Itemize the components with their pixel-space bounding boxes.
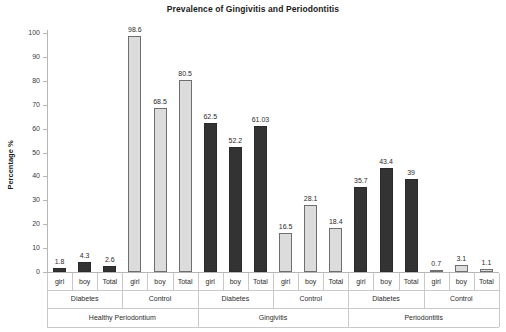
x-tick-label-total: Total xyxy=(399,278,424,285)
bar-gingivitis-control-total[interactable] xyxy=(329,228,342,272)
bar-periodontitis-control-total[interactable] xyxy=(480,269,493,272)
y-tick-label: 70 xyxy=(14,101,40,108)
x-group-label-control: Control xyxy=(122,295,197,302)
bar-gingivitis-diabetes-total[interactable] xyxy=(254,126,267,272)
bar-gingivitis-control-boy[interactable] xyxy=(304,205,317,272)
y-tick-label: 90 xyxy=(14,53,40,60)
bar-value-label: 35.7 xyxy=(345,177,377,184)
axis-cell-separator xyxy=(97,273,98,290)
axis-cell-separator xyxy=(122,290,123,308)
x-tick-label-total: Total xyxy=(248,278,273,285)
bar-value-label: 28.1 xyxy=(295,195,327,202)
y-tick-label: 50 xyxy=(14,149,40,156)
bar-periodontitis-control-girl[interactable] xyxy=(430,270,443,272)
axis-cell-separator xyxy=(424,273,425,290)
y-tick-label: 80 xyxy=(14,77,40,84)
x-tick-label-girl: girl xyxy=(348,278,373,285)
bar-value-label: 68.5 xyxy=(144,98,176,105)
axis-cell-separator xyxy=(248,273,249,290)
x-group-label-diabetes: Diabetes xyxy=(198,295,273,302)
axis-cell-separator xyxy=(499,273,500,327)
x-tick-label-boy: boy xyxy=(298,278,323,285)
x-tick-label-total: Total xyxy=(474,278,499,285)
bar-value-label: 2.6 xyxy=(94,256,126,263)
bar-value-label: 43.4 xyxy=(370,158,402,165)
x-group-label-control: Control xyxy=(273,295,348,302)
x-tick-label-girl: girl xyxy=(273,278,298,285)
bar-value-label: 98.6 xyxy=(119,26,151,33)
bar-value-label: 61.03 xyxy=(244,116,276,123)
axis-cell-separator xyxy=(173,273,174,290)
axis-cell-separator xyxy=(348,308,349,327)
y-tick-label: 10 xyxy=(14,244,40,251)
y-tick-label: 0 xyxy=(14,268,40,275)
x-tick-label-girl: girl xyxy=(122,278,147,285)
x-tick-label-boy: boy xyxy=(373,278,398,285)
plot-area: 1.84.32.698.668.580.562.552.261.0316.528… xyxy=(47,33,499,272)
x-tick-label-total: Total xyxy=(323,278,348,285)
axis-row-divider xyxy=(47,308,499,309)
bar-value-label: 39 xyxy=(395,169,427,176)
axis-cell-separator xyxy=(122,273,123,290)
bar-healthy-periodontium-control-boy[interactable] xyxy=(154,108,167,272)
axis-cell-separator xyxy=(373,273,374,290)
bar-periodontitis-diabetes-boy[interactable] xyxy=(380,168,393,272)
bar-healthy-periodontium-control-girl[interactable] xyxy=(128,36,141,272)
chart-canvas: Prevalence of Gingivitis and Periodontit… xyxy=(0,0,506,332)
bar-value-label: 80.5 xyxy=(169,70,201,77)
axis-cell-separator xyxy=(147,273,148,290)
chart-title: Prevalence of Gingivitis and Periodontit… xyxy=(0,4,506,14)
y-tick-label: 30 xyxy=(14,196,40,203)
axis-cell-separator xyxy=(273,290,274,308)
bar-periodontitis-diabetes-girl[interactable] xyxy=(354,187,367,272)
axis-cell-separator xyxy=(424,290,425,308)
x-tick-label-girl: girl xyxy=(47,278,72,285)
axis-cell-separator xyxy=(298,273,299,290)
x-tick-label-boy: boy xyxy=(147,278,172,285)
x-condition-label-gingivitis: Gingivitis xyxy=(198,314,349,321)
axis-cell-separator xyxy=(198,290,199,308)
bar-healthy-periodontium-diabetes-total[interactable] xyxy=(103,266,116,272)
x-tick-label-total: Total xyxy=(97,278,122,285)
axis-cell-separator xyxy=(273,273,274,290)
y-tick-label: 60 xyxy=(14,125,40,132)
y-tick-label: 20 xyxy=(14,220,40,227)
bar-value-label: 18.4 xyxy=(320,218,352,225)
x-tick-label-girl: girl xyxy=(424,278,449,285)
bar-gingivitis-diabetes-girl[interactable] xyxy=(204,123,217,272)
axis-cell-separator xyxy=(323,273,324,290)
bar-value-label: 52.2 xyxy=(219,137,251,144)
x-group-label-control: Control xyxy=(424,295,499,302)
y-tick-label: 40 xyxy=(14,172,40,179)
bar-gingivitis-diabetes-boy[interactable] xyxy=(229,147,242,272)
axis-cell-separator xyxy=(198,308,199,327)
x-condition-label-healthy-periodontium: Healthy Periodontium xyxy=(47,314,198,321)
axis-row-divider xyxy=(47,327,499,328)
bar-healthy-periodontium-diabetes-boy[interactable] xyxy=(78,262,91,272)
axis-cell-separator xyxy=(474,273,475,290)
bar-periodontitis-diabetes-total[interactable] xyxy=(405,179,418,272)
x-tick-label-boy: boy xyxy=(449,278,474,285)
bar-periodontitis-control-boy[interactable] xyxy=(455,265,468,272)
x-tick-label-girl: girl xyxy=(198,278,223,285)
axis-cell-separator xyxy=(223,273,224,290)
axis-cell-separator xyxy=(399,273,400,290)
bar-value-label: 1.1 xyxy=(470,259,502,266)
bar-healthy-periodontium-diabetes-girl[interactable] xyxy=(53,268,66,272)
y-tick-label: 100 xyxy=(14,29,40,36)
x-group-label-diabetes: Diabetes xyxy=(348,295,423,302)
bar-value-label: 16.5 xyxy=(270,223,302,230)
axis-cell-separator xyxy=(348,273,349,290)
bar-gingivitis-control-girl[interactable] xyxy=(279,233,292,272)
x-tick-label-total: Total xyxy=(173,278,198,285)
bar-healthy-periodontium-control-total[interactable] xyxy=(179,80,192,272)
bar-value-label: 62.5 xyxy=(194,113,226,120)
x-condition-label-periodontitis: Periodontitis xyxy=(348,314,499,321)
axis-cell-separator xyxy=(198,273,199,290)
axis-cell-separator xyxy=(348,290,349,308)
axis-cell-separator xyxy=(449,273,450,290)
axis-cell-separator xyxy=(72,273,73,290)
x-tick-label-boy: boy xyxy=(223,278,248,285)
x-group-label-diabetes: Diabetes xyxy=(47,295,122,302)
x-tick-label-boy: boy xyxy=(72,278,97,285)
